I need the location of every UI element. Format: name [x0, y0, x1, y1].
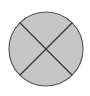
circle-cross-diagram [0, 0, 90, 96]
